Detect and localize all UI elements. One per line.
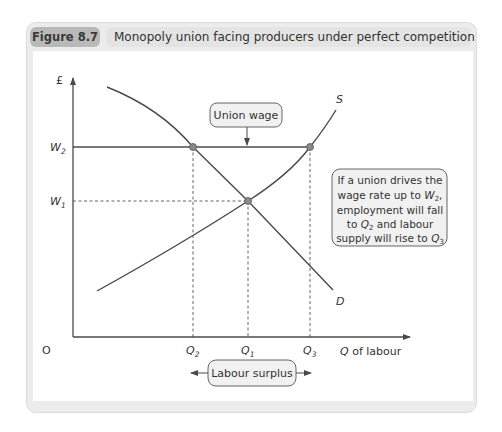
origin-label: O <box>42 344 51 357</box>
y-axis-label: £ <box>56 74 63 87</box>
x-axis-label: Q of labour <box>340 345 402 358</box>
union-wage-callout-text: Union wage <box>214 109 279 122</box>
chart-canvas: £ O W2 W1 Q2 Q1 Q3 Q of labour S D Union… <box>0 0 502 432</box>
w1-label: W1 <box>50 195 66 210</box>
q3-label: Q3 <box>303 344 317 359</box>
q1-label: Q1 <box>241 344 254 359</box>
q2-label: Q2 <box>186 344 200 359</box>
point-q2-w2 <box>190 144 197 151</box>
w2-label: W2 <box>50 141 66 156</box>
svg-text:wage rate up to W2,: wage rate up to W2, <box>338 189 443 203</box>
labour-surplus-callout-text: Labour surplus <box>211 367 293 380</box>
svg-text:to Q2 and labour: to Q2 and labour <box>347 218 434 232</box>
explanation-callout-text: If a union drives the wage rate up to W2… <box>336 174 444 246</box>
supply-curve <box>97 110 336 291</box>
point-q3-w2 <box>307 144 314 151</box>
supply-label: S <box>336 93 343 106</box>
guide-lines <box>73 147 310 337</box>
point-q1-w1 <box>245 198 252 205</box>
demand-label: D <box>336 295 344 308</box>
svg-text:employment will fall: employment will fall <box>337 204 443 216</box>
svg-text:If a union drives the: If a union drives the <box>337 174 442 186</box>
svg-text:supply will rise to Q3: supply will rise to Q3 <box>336 232 444 246</box>
